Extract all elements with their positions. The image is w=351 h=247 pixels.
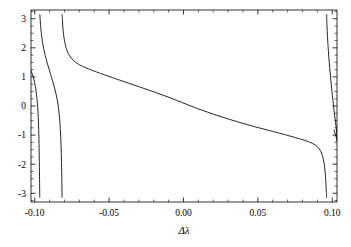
x-axis-label: Δλ xyxy=(177,224,189,236)
y-tick-label: -1 xyxy=(18,130,26,140)
x-tick-label: -0.05 xyxy=(99,208,119,218)
x-tick-label: 0.00 xyxy=(175,208,192,218)
y-tick-label: 0 xyxy=(21,101,26,111)
x-tick-label: 0.05 xyxy=(250,208,267,218)
x-tick-label: 0.10 xyxy=(324,208,341,218)
y-tick-label: 1 xyxy=(21,72,26,82)
y-tick-label: -2 xyxy=(18,160,26,170)
x-tick-label: -0.10 xyxy=(25,208,45,218)
phase-plot-svg: -0.10-0.050.000.050.10 -3-2-10123 Δλ xyxy=(0,0,351,247)
y-tick-label: 2 xyxy=(21,43,26,53)
y-tick-label: 3 xyxy=(21,14,26,24)
chart-figure: -0.10-0.050.000.050.10 -3-2-10123 Δλ xyxy=(0,0,351,247)
y-tick-label: -3 xyxy=(18,189,26,199)
